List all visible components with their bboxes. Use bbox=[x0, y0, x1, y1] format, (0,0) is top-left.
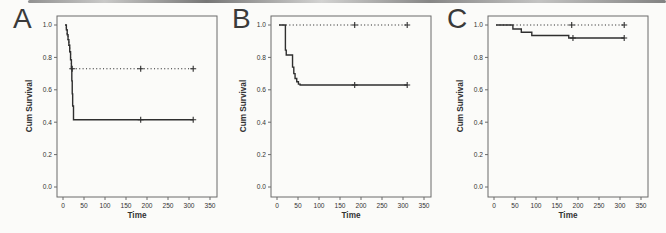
svg-text:0: 0 bbox=[492, 202, 496, 209]
svg-text:0.0: 0.0 bbox=[257, 183, 266, 190]
svg-text:Cum Survival: Cum Survival bbox=[456, 80, 465, 132]
svg-text:200: 200 bbox=[355, 202, 366, 209]
svg-text:1.0: 1.0 bbox=[257, 21, 266, 28]
svg-text:300: 300 bbox=[397, 202, 408, 209]
svg-text:0.8: 0.8 bbox=[257, 54, 266, 61]
svg-text:250: 250 bbox=[376, 202, 387, 209]
panel-label-c: C bbox=[447, 5, 467, 33]
survival-panel-b: B 0.00.20.40.60.81.005010015020025030035… bbox=[222, 0, 444, 233]
svg-text:0.2: 0.2 bbox=[474, 151, 483, 158]
panel-row: A 0.00.20.40.60.81.005010015020025030035… bbox=[0, 0, 666, 233]
svg-text:Time: Time bbox=[342, 211, 361, 220]
svg-text:0.8: 0.8 bbox=[474, 54, 483, 61]
svg-text:0.2: 0.2 bbox=[257, 151, 266, 158]
svg-text:350: 350 bbox=[418, 202, 429, 209]
svg-text:Cum Survival: Cum Survival bbox=[239, 80, 248, 132]
svg-text:300: 300 bbox=[614, 202, 625, 209]
svg-text:0: 0 bbox=[61, 202, 65, 209]
svg-text:100: 100 bbox=[530, 202, 541, 209]
survival-chart-b: 0.00.20.40.60.81.0050100150200250300350T… bbox=[222, 0, 444, 233]
survival-figure: A 0.00.20.40.60.81.005010015020025030035… bbox=[0, 0, 666, 233]
svg-text:150: 150 bbox=[334, 202, 345, 209]
svg-text:0.6: 0.6 bbox=[474, 86, 483, 93]
svg-text:1.0: 1.0 bbox=[474, 21, 483, 28]
svg-text:0.2: 0.2 bbox=[43, 151, 52, 158]
svg-text:50: 50 bbox=[511, 202, 519, 209]
svg-text:50: 50 bbox=[294, 202, 302, 209]
svg-text:300: 300 bbox=[183, 202, 194, 209]
survival-chart-c: 0.00.20.40.60.81.0050100150200250300350T… bbox=[444, 0, 666, 233]
survival-chart-a: 0.00.20.40.60.81.0050100150200250300350T… bbox=[0, 0, 222, 233]
svg-text:0.4: 0.4 bbox=[474, 119, 483, 126]
svg-text:Cum Survival: Cum Survival bbox=[25, 80, 34, 132]
svg-text:0.0: 0.0 bbox=[43, 183, 52, 190]
svg-text:0.6: 0.6 bbox=[257, 86, 266, 93]
svg-text:100: 100 bbox=[99, 202, 110, 209]
svg-text:0.6: 0.6 bbox=[43, 86, 52, 93]
svg-text:100: 100 bbox=[313, 202, 324, 209]
svg-text:0.8: 0.8 bbox=[43, 54, 52, 61]
svg-text:1.0: 1.0 bbox=[43, 21, 52, 28]
panel-label-a: A bbox=[13, 5, 32, 33]
survival-panel-c: C 0.00.20.40.60.81.005010015020025030035… bbox=[444, 0, 666, 233]
svg-text:Time: Time bbox=[559, 211, 578, 220]
svg-text:200: 200 bbox=[141, 202, 152, 209]
svg-text:350: 350 bbox=[635, 202, 646, 209]
svg-text:250: 250 bbox=[593, 202, 604, 209]
svg-text:0.0: 0.0 bbox=[474, 183, 483, 190]
svg-text:150: 150 bbox=[120, 202, 131, 209]
svg-text:0: 0 bbox=[275, 202, 279, 209]
svg-text:200: 200 bbox=[572, 202, 583, 209]
svg-text:250: 250 bbox=[162, 202, 173, 209]
svg-text:0.4: 0.4 bbox=[257, 119, 266, 126]
panel-label-b: B bbox=[232, 5, 251, 33]
svg-text:0.4: 0.4 bbox=[43, 119, 52, 126]
svg-text:Time: Time bbox=[128, 211, 147, 220]
svg-text:50: 50 bbox=[80, 202, 88, 209]
svg-text:350: 350 bbox=[204, 202, 215, 209]
survival-panel-a: A 0.00.20.40.60.81.005010015020025030035… bbox=[0, 0, 222, 233]
svg-text:150: 150 bbox=[551, 202, 562, 209]
